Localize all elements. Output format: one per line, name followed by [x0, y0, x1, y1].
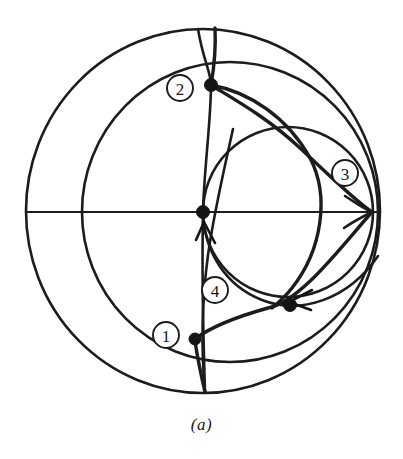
node-point-lower-right [284, 299, 297, 312]
smith-chart-svg: 1 2 3 4 [0, 0, 403, 459]
figure-smith-chart: 1 2 3 4 (a) [0, 0, 403, 459]
callout-badge-3: 3 [332, 160, 358, 186]
callout-label-4: 4 [211, 282, 220, 301]
figure-caption: (a) [0, 415, 403, 435]
callout-label-3: 3 [341, 165, 350, 184]
callout-badge-4: 4 [202, 277, 228, 303]
node-point-2 [205, 79, 218, 92]
callout-label-1: 1 [162, 327, 171, 346]
callout-badge-2: 2 [167, 75, 193, 101]
callout-label-2: 2 [176, 80, 185, 99]
node-point-center [197, 206, 210, 219]
node-point-1 [189, 333, 201, 345]
callout-badge-1: 1 [153, 322, 179, 348]
